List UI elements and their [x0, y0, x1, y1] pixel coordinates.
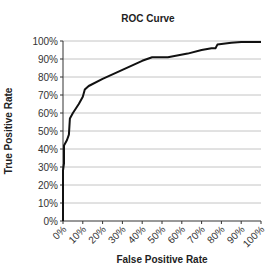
x-tick-label: 80% [205, 224, 227, 246]
x-tick-label: 20% [86, 224, 108, 246]
y-tick-label: 0% [44, 216, 59, 227]
x-tick-label: 40% [126, 224, 148, 246]
x-tick-label: 70% [185, 224, 207, 246]
x-tick-label: 50% [145, 224, 167, 246]
x-tick-label: 100% [241, 224, 267, 250]
y-tick-label: 30% [38, 162, 58, 173]
x-axis-label: False Positive Rate [116, 254, 208, 265]
y-tick-label: 60% [38, 108, 58, 119]
y-tick-label: 70% [38, 90, 58, 101]
y-axis-ticks: 0%10%20%30%40%50%60%70%80%90%100% [32, 36, 63, 227]
y-tick-label: 20% [38, 180, 58, 191]
x-axis-ticks: 0%10%20%30%40%50%60%70%80%90%100% [50, 221, 266, 250]
gridlines [63, 41, 261, 203]
chart-title: ROC Curve [121, 13, 175, 24]
y-tick-label: 80% [38, 72, 58, 83]
x-tick-label: 10% [66, 224, 88, 246]
roc-chart: ROC Curve 0%10%20%30%40%50%60%70%80%90%1… [0, 0, 277, 274]
x-tick-label: 30% [106, 224, 128, 246]
y-tick-label: 10% [38, 198, 58, 209]
y-tick-label: 100% [32, 36, 58, 47]
y-tick-label: 50% [38, 126, 58, 137]
x-tick-label: 60% [165, 224, 187, 246]
y-tick-label: 90% [38, 54, 58, 65]
y-tick-label: 40% [38, 144, 58, 155]
y-axis-label: True Positive Rate [3, 87, 14, 174]
